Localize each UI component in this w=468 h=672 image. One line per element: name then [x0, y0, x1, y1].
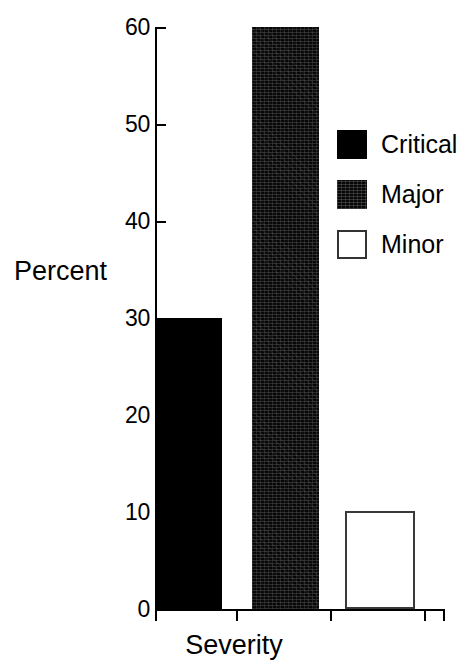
y-tick-0 [157, 609, 166, 611]
legend-swatch-minor-icon [337, 230, 367, 259]
x-tick-1 [236, 611, 238, 621]
x-tick-4 [443, 611, 445, 621]
legend-label-major: Major [381, 178, 444, 211]
x-tick-3 [424, 611, 426, 621]
y-tick-label-0: 0 [138, 598, 151, 621]
legend-swatch-major-icon [337, 180, 367, 209]
y-tick-label-30: 30 [125, 307, 150, 330]
y-tick-40 [157, 221, 166, 223]
x-tick-2 [330, 611, 332, 621]
y-tick-label-60: 60 [125, 16, 150, 39]
legend-label-critical: Critical [381, 128, 457, 161]
y-tick-label-20: 20 [125, 404, 150, 427]
legend-swatch-critical-icon [337, 130, 367, 159]
x-axis-line [155, 609, 445, 611]
bar-critical [157, 318, 222, 609]
y-axis-title: Percent [14, 256, 107, 286]
y-tick-label-50: 50 [125, 113, 150, 136]
bar-chart: 60 50 40 30 20 10 0 Percent Severity Cri… [0, 0, 468, 672]
y-tick-label-10: 10 [125, 501, 150, 524]
x-tick-0 [155, 611, 157, 621]
y-tick-50 [157, 124, 166, 126]
bar-minor [345, 511, 415, 609]
y-tick-60 [157, 27, 166, 29]
y-tick-label-40: 40 [125, 210, 150, 233]
x-axis-title: Severity [0, 630, 468, 660]
legend-label-minor: Minor [381, 228, 444, 261]
bar-major [252, 27, 319, 609]
